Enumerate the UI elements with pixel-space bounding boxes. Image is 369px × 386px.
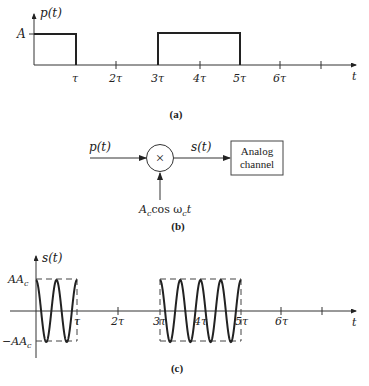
input-label: p(t) [89,140,111,154]
caption-a: (a) [170,108,183,121]
tick-label: 5τ [235,315,249,328]
figure: p(t) A t τ 2τ 3τ 4τ 5τ 6τ (a) p(t) × s(t… [0,0,369,386]
caption-c: (c) [171,362,184,375]
amp-label-a: A [16,27,26,41]
neg-amp-label: −AAc [2,335,32,350]
tick-label: 3τ [151,72,165,85]
panel-b: p(t) × s(t) Analog channel Accos ωct (b) [89,140,283,233]
channel-label-2: channel [240,158,274,170]
x-label-a: t [352,70,357,83]
channel-label-1: Analog [241,145,274,157]
output-label: s(t) [191,140,212,154]
y-label-a: p(t) [40,6,62,20]
y-label-c: s(t) [42,251,63,265]
pulse-1 [34,34,76,65]
x-label-c: t [352,316,357,329]
pos-amp-label: AAc [7,273,29,288]
tick-label: τ [74,315,81,328]
tick-label: 6τ [273,72,287,85]
caption-b: (b) [171,220,185,233]
tick-label: τ [72,72,79,85]
multiply-icon: × [156,150,164,166]
panel-c: s(t) t AAc −AAc τ 2τ 3τ 4τ 5τ 6τ [2,251,357,375]
tick-label: 4τ [192,72,207,85]
tick-label: 2τ [110,315,125,328]
tick-label: 5τ [233,72,247,85]
tick-label: 2τ [108,72,123,85]
carrier-label: Accos ωct [138,203,192,218]
envelope-1 [36,279,77,341]
pulse-2 [158,33,240,65]
tick-label: 6τ [275,315,289,328]
panel-a: p(t) A t τ 2τ 3τ 4τ 5τ 6τ (a) [16,6,357,121]
